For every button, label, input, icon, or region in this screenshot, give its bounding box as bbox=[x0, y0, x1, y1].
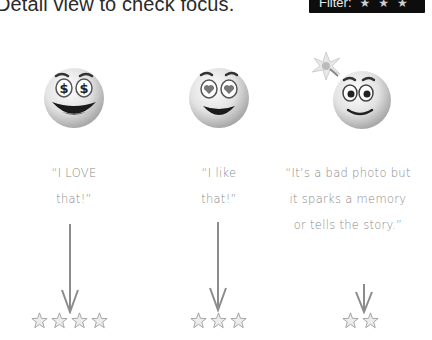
quote-text: “I like that!” bbox=[187, 160, 251, 212]
quote-line: or tells the story.” bbox=[268, 212, 428, 238]
quote-line: it sparks a memory bbox=[268, 186, 428, 212]
star-icon bbox=[71, 312, 88, 329]
star-rating-4 bbox=[31, 312, 108, 329]
quote-text: “I LOVE that!” bbox=[44, 160, 104, 212]
quote-line: that!” bbox=[187, 186, 251, 212]
star-icon bbox=[31, 312, 48, 329]
lightbulb-idea-emoji-icon bbox=[310, 50, 400, 134]
svg-text:$: $ bbox=[79, 81, 88, 96]
star-icon bbox=[342, 312, 359, 329]
quote-text: “It’s a bad photo but it sparks a memory… bbox=[268, 160, 428, 238]
quote-line: “It’s a bad photo but bbox=[268, 160, 428, 186]
heart-eyes-emoji-icon bbox=[187, 66, 251, 130]
quote-line: “I like bbox=[187, 160, 251, 186]
star-rating-3 bbox=[190, 312, 247, 329]
star-icon bbox=[210, 312, 227, 329]
down-arrow-icon bbox=[354, 284, 374, 314]
down-arrow-icon bbox=[208, 222, 228, 312]
slide-title: Detail view to check focus. bbox=[0, 0, 234, 16]
star-icon bbox=[230, 312, 247, 329]
filter-label: Filter: bbox=[319, 0, 352, 10]
filter-box: Filter: ★ ★ ★ bbox=[309, 0, 425, 13]
star-icon bbox=[362, 312, 379, 329]
star-icon: ★ bbox=[397, 0, 408, 9]
star-icon bbox=[190, 312, 207, 329]
star-icon bbox=[91, 312, 108, 329]
dollar-eyes-emoji-icon: $ $ bbox=[42, 66, 106, 130]
star-icon bbox=[51, 312, 68, 329]
quote-line: “I LOVE bbox=[44, 160, 104, 186]
quote-line: that!” bbox=[44, 186, 104, 212]
down-arrow-icon bbox=[60, 224, 80, 314]
star-icon: ★ bbox=[360, 0, 371, 9]
star-rating-2 bbox=[342, 312, 379, 329]
svg-text:$: $ bbox=[59, 81, 68, 96]
star-icon: ★ bbox=[378, 0, 389, 9]
